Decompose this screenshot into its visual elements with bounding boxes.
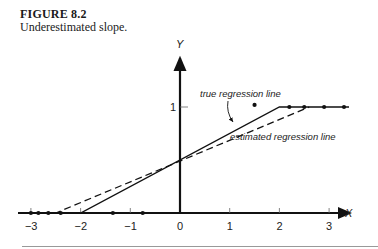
- x-tick-label: 0: [177, 220, 183, 232]
- x-tick-label: −2: [75, 220, 88, 232]
- data-point: [59, 211, 63, 215]
- data-point: [111, 211, 115, 215]
- data-point: [46, 211, 50, 215]
- estimated-regression-line: [21, 107, 309, 213]
- data-point: [342, 105, 346, 109]
- data-point: [302, 105, 306, 109]
- data-point: [36, 211, 40, 215]
- x-tick-label: 3: [326, 220, 332, 232]
- x-axis-label: X: [344, 207, 353, 219]
- x-tick-label: −1: [124, 220, 137, 232]
- data-point: [141, 211, 145, 215]
- x-tick-label: 2: [276, 220, 282, 232]
- y-tick-label: 1: [170, 101, 176, 113]
- x-tick-label: 1: [227, 220, 233, 232]
- data-point: [252, 103, 256, 107]
- true-line-annotation: true regression line: [200, 88, 281, 99]
- x-tick-label: −3: [25, 220, 38, 232]
- y-axis-label: Y: [176, 38, 184, 50]
- data-point: [322, 105, 326, 109]
- true-regression-line: [21, 107, 349, 213]
- data-point: [287, 105, 291, 109]
- annotation-arrow: [228, 101, 233, 122]
- regression-chart: −3−2−101231 X Y true regression line est…: [0, 0, 378, 249]
- data-point: [29, 211, 33, 215]
- bottom-rule: [22, 246, 378, 247]
- estimated-line-annotation: estimated regression line: [230, 131, 336, 142]
